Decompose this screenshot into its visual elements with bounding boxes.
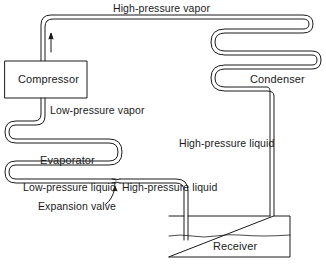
label-low-pressure-vapor: Low-pressure vapor	[50, 105, 145, 116]
label-expansion-valve: Expansion valve	[38, 201, 116, 212]
label-high-pressure-liquid-bottom: High-pressure liquid	[122, 182, 217, 193]
label-compressor: Compressor	[18, 74, 79, 85]
label-receiver: Receiver	[213, 241, 257, 252]
label-low-pressure-liquid: Low-pressure liquid	[23, 182, 116, 193]
label-high-pressure-vapor: High-pressure vapor	[113, 3, 210, 14]
refrigeration-cycle-diagram	[0, 0, 326, 269]
flow-arrow-icon	[49, 33, 53, 52]
label-condenser: Condenser	[250, 74, 305, 85]
label-evaporator: Evaporator	[40, 155, 95, 166]
label-high-pressure-liquid-right: High-pressure liquid	[179, 138, 274, 149]
